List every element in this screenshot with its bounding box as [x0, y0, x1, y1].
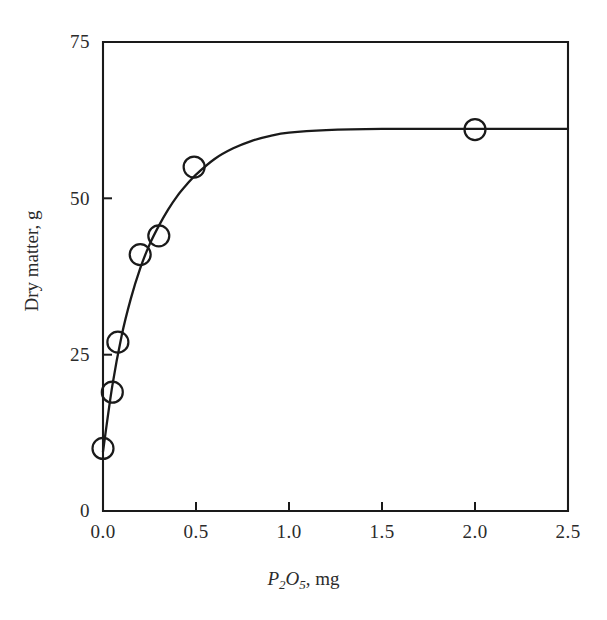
data-point: [148, 225, 169, 246]
x-axis-label: P2O5, mg: [0, 568, 607, 590]
x-tick-label-1-5: 1.5: [347, 521, 417, 543]
x-axis-label-sub2: 2: [279, 577, 286, 592]
data-curve: [103, 129, 568, 452]
axis-frame: [103, 42, 568, 511]
x-axis-label-units: , mg: [306, 568, 340, 589]
x-tick-label-0-0: 0.0: [68, 521, 138, 543]
y-tick-label-25: 25: [44, 344, 90, 366]
x-tick-label-2-0: 2.0: [440, 521, 510, 543]
data-point-markers: [93, 119, 486, 459]
x-tick-label-2-5: 2.5: [533, 521, 603, 543]
data-point: [130, 244, 151, 265]
x-axis-ticks: [103, 502, 568, 511]
x-tick-label-1-0: 1.0: [254, 521, 324, 543]
x-tick-label-0-5: 0.5: [161, 521, 231, 543]
y-tick-label-50: 50: [44, 188, 90, 210]
x-axis-label-sub5: 5: [299, 577, 306, 592]
x-axis-label-o: O: [286, 568, 300, 589]
y-tick-label-75: 75: [44, 31, 90, 53]
y-tick-label-0: 0: [44, 500, 90, 522]
y-axis-label: Dry matter, g: [21, 181, 43, 341]
x-axis-label-p: P: [267, 568, 279, 589]
data-point: [184, 157, 205, 178]
chart-figure: 75 50 25 0 0.0 0.5 1.0 1.5 2.0 2.5 Dry m…: [0, 0, 607, 620]
